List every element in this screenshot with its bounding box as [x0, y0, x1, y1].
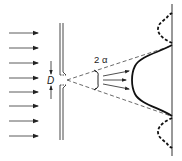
slit-upper-jaw: [60, 23, 66, 75]
angle-bracket: [95, 71, 98, 89]
cone-lower-edge: [67, 80, 171, 116]
diffracted-ray: [103, 71, 129, 76]
slit-width-label: D: [47, 75, 54, 86]
slit-barrier: [60, 23, 66, 140]
central-maximum-curve: [132, 45, 172, 116]
angle-bracket-tick-bottom: [94, 88, 97, 90]
angle-label: 2 α: [94, 54, 108, 65]
lower-side-maximum-curve: [158, 118, 172, 148]
divergence-cone: [67, 46, 171, 116]
diffraction-diagram: D 2 α: [0, 0, 182, 161]
cone-upper-edge: [67, 46, 171, 80]
diffracted-ray: [103, 84, 129, 89]
incident-wave-arrows: [9, 33, 38, 136]
upper-side-maximum-curve: [158, 13, 172, 43]
diffracted-rays: [103, 71, 129, 89]
slit-lower-jaw: [60, 85, 66, 140]
